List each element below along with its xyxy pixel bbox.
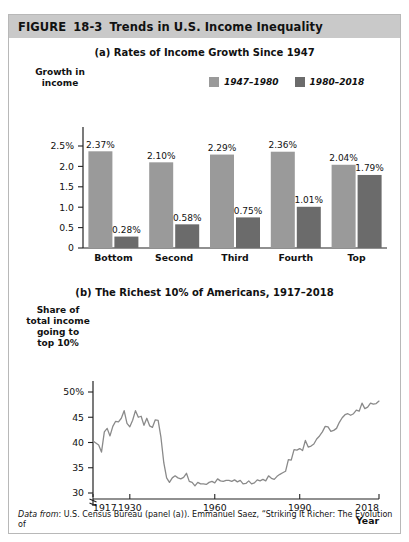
panel-a-bar-value-label: 1.01% <box>295 195 324 205</box>
panel-a-bar <box>175 224 199 248</box>
panel-a-x-category-label: Third <box>221 252 248 263</box>
panel-a-bar-chart: 2.5%2.01.51.00.502.37%0.28%Bottom2.10%0.… <box>9 15 402 265</box>
panel-a-bar-value-label: 2.29% <box>208 143 237 153</box>
panel-a-y-tick-label: 1.0 <box>59 202 74 213</box>
source-note-text: : U.S. Census Bureau (panel (a)). Emmanu… <box>18 510 392 529</box>
panel-a-bar-value-label: 2.10% <box>147 151 176 161</box>
panel-a-x-category-label: Second <box>155 252 193 263</box>
panel-a-y-tick-label: 2.5% <box>50 140 74 151</box>
panel-b-line-chart: 50%4540353019171930196019902018Year <box>9 277 402 527</box>
panel-a-x-category-label: Top <box>348 252 366 263</box>
panel-b-y-tick-label: 35 <box>72 462 84 473</box>
source-note: Data from: U.S. Census Bureau (panel (a)… <box>18 510 394 530</box>
figure-container: FIGURE18-3Trends in U.S. Income Inequali… <box>8 14 401 534</box>
panel-a-bar-value-label: 2.37% <box>86 140 115 150</box>
panel-a-x-category-label: Fourth <box>278 252 313 263</box>
panel-a-bar <box>210 155 234 248</box>
panel-a-bar-value-label: 0.58% <box>173 213 202 223</box>
panel-b-y-tick-label: 30 <box>72 487 84 498</box>
panel-a-bar <box>358 175 382 248</box>
source-note-prefix: Data from <box>18 510 58 519</box>
panel-a-bar <box>114 237 138 248</box>
panel-b-y-tick-label: 50% <box>63 386 84 397</box>
panel-a-y-tick-label: 0.5 <box>59 222 74 233</box>
panel-a-bar <box>88 151 112 248</box>
panel-a-bar <box>236 217 260 248</box>
panel-a-bar-value-label: 2.36% <box>269 140 298 150</box>
panel-a-bar <box>332 165 356 248</box>
panel-a-bar-value-label: 2.04% <box>329 153 358 163</box>
panel-a-y-tick-label: 2.0 <box>59 161 74 172</box>
panel-a-bar-value-label: 0.28% <box>112 225 141 235</box>
panel-b-data-line <box>93 401 379 486</box>
panel-b-y-tick-label: 40 <box>72 437 84 448</box>
panel-b-y-tick-label: 45 <box>72 412 84 423</box>
panel-a-bar <box>297 207 321 248</box>
panel-a-x-category-label: Bottom <box>94 252 132 263</box>
panel-a-y-tick-label: 0 <box>68 242 74 253</box>
panel-a-bar <box>271 152 295 248</box>
panel-a-bar <box>149 162 173 248</box>
panel-a-bar-value-label: 1.79% <box>355 163 384 173</box>
panel-a-bar-value-label: 0.75% <box>234 206 263 216</box>
panel-a-y-tick-label: 1.5 <box>59 181 74 192</box>
